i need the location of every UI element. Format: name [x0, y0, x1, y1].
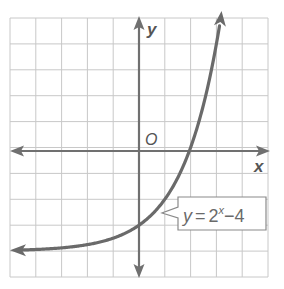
y-axis-label: y — [146, 20, 158, 39]
x-axis-label: x — [253, 157, 265, 176]
origin-label: O — [145, 131, 157, 148]
curve-up-arrow-icon — [214, 11, 226, 27]
equation-label: y=2x−4 — [181, 204, 245, 226]
equation-callout: y=2x−4 — [162, 197, 266, 230]
exponential-graph: y x O y=2x−4 — [0, 0, 284, 289]
